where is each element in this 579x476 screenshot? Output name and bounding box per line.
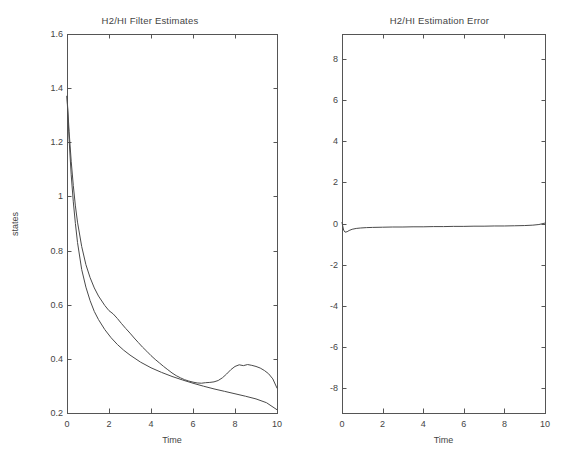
y-tick-label: 0.2 <box>33 408 63 418</box>
y-tick-label: 4 <box>308 136 338 146</box>
y-tick-label: 1 <box>33 191 63 201</box>
x-tick-label: 4 <box>421 419 426 429</box>
data-series-smooth-estimate <box>67 96 277 409</box>
y-tick-label: 6 <box>308 95 338 105</box>
axes-left <box>0 0 300 476</box>
plot-panel-filter-estimates: H2/HI Filter Estimates 02468100.20.40.60… <box>0 0 300 476</box>
x-tick-label: 2 <box>380 419 385 429</box>
x-axis-label: Time <box>434 435 454 445</box>
plot-box <box>343 35 546 414</box>
y-tick-label: 0 <box>308 219 338 229</box>
x-tick-label: 6 <box>190 419 195 429</box>
axes-right <box>300 0 579 476</box>
y-tick-label: 1.4 <box>33 83 63 93</box>
y-tick-label: 0.4 <box>33 354 63 364</box>
plot-box <box>68 35 278 414</box>
x-tick-label: 8 <box>232 419 237 429</box>
y-axis-label: states <box>10 211 20 235</box>
x-tick-label: 4 <box>148 419 153 429</box>
y-tick-label: 0.8 <box>33 246 63 256</box>
y-tick-label: 0.6 <box>33 300 63 310</box>
y-tick-label: 1.2 <box>33 137 63 147</box>
y-tick-label: -8 <box>308 383 338 393</box>
y-tick-label: 8 <box>308 54 338 64</box>
x-tick-label: 0 <box>64 419 69 429</box>
y-tick-label: 1.6 <box>33 29 63 39</box>
y-tick-label: -6 <box>308 342 338 352</box>
x-tick-label: 6 <box>461 419 466 429</box>
data-series-noisy-estimate <box>67 96 277 388</box>
x-tick-label: 2 <box>106 419 111 429</box>
figure-canvas: H2/HI Filter Estimates 02468100.20.40.60… <box>0 0 579 476</box>
x-tick-label: 0 <box>339 419 344 429</box>
y-tick-label: 2 <box>308 177 338 187</box>
x-tick-label: 10 <box>540 419 550 429</box>
data-series-estimation-error <box>342 222 545 232</box>
x-axis-label: Time <box>162 435 182 445</box>
y-tick-label: -4 <box>308 301 338 311</box>
x-tick-label: 8 <box>502 419 507 429</box>
x-tick-label: 10 <box>272 419 282 429</box>
y-tick-label: -2 <box>308 260 338 270</box>
plot-panel-estimation-error: H2/HI Estimation Error 0246810-8-6-4-202… <box>300 0 579 476</box>
